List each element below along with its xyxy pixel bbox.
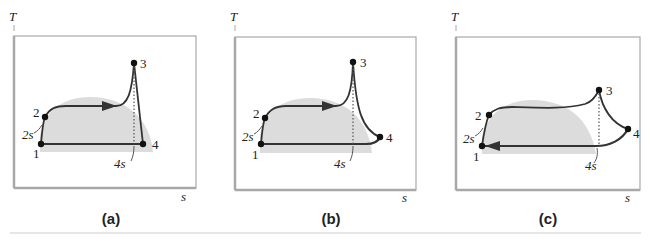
x-axis-label: s xyxy=(625,190,630,205)
y-axis-label: T xyxy=(230,9,238,24)
y-axis-label: T xyxy=(9,9,17,24)
state-point-2 xyxy=(486,112,492,118)
label-2: 2 xyxy=(475,108,482,123)
label-4s: 4s xyxy=(334,156,346,171)
label-4s: 4s xyxy=(114,156,126,171)
state-point-1 xyxy=(258,141,264,147)
y-axis-label: T xyxy=(451,9,459,24)
caption-a: (a) xyxy=(102,210,120,227)
state-point-2 xyxy=(42,114,48,120)
panel-b: T 1 2 3 4 2s 4s s (b) xyxy=(230,9,416,227)
label-1: 1 xyxy=(473,149,480,164)
x-axis-label: s xyxy=(402,190,407,205)
label-2s: 2s xyxy=(463,131,475,146)
panel-c: T 1 2 3 4 2s 4s s (c) xyxy=(451,9,640,227)
label-1: 1 xyxy=(252,147,259,162)
label-3: 3 xyxy=(140,56,147,71)
label-1: 1 xyxy=(33,146,40,161)
label-2s: 2s xyxy=(242,129,254,144)
label-4: 4 xyxy=(633,126,640,141)
caption-b: (b) xyxy=(321,210,340,227)
state-point-2 xyxy=(262,115,268,121)
state-point-4 xyxy=(625,126,631,132)
x-axis-label: s xyxy=(181,189,186,204)
label-4s: 4s xyxy=(585,158,597,173)
panel-a: T 1 2 3 4 2s 4s s (a) xyxy=(9,9,196,227)
state-point-4 xyxy=(140,141,146,147)
label-2: 2 xyxy=(33,105,40,120)
caption-c: (c) xyxy=(539,210,557,227)
state-point-1 xyxy=(479,143,485,149)
label-2s: 2s xyxy=(22,127,34,142)
state-point-3 xyxy=(131,60,137,66)
label-4: 4 xyxy=(386,130,393,145)
label-3: 3 xyxy=(606,83,613,98)
label-2: 2 xyxy=(253,106,260,121)
label-4: 4 xyxy=(152,137,159,152)
state-point-3 xyxy=(596,87,602,93)
state-point-4 xyxy=(377,134,383,140)
state-point-3 xyxy=(350,59,356,65)
ts-diagram-figure: T 1 2 3 4 2s 4s s (a) T xyxy=(0,0,649,240)
label-3: 3 xyxy=(360,55,367,70)
